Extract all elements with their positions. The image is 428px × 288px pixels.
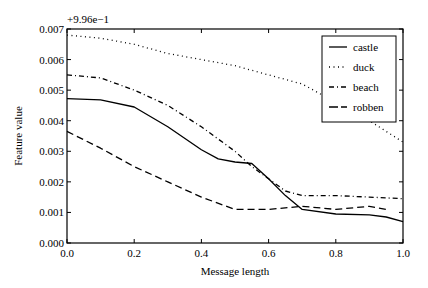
y-tick-label: 0.005	[39, 84, 64, 96]
y-tick-label: 0.000	[39, 237, 64, 249]
x-tick-label: 0.4	[195, 247, 209, 259]
x-tick-label: 0.2	[127, 247, 141, 259]
legend-label: castle	[353, 41, 378, 53]
offset-label: +9.96e−1	[67, 13, 109, 25]
x-axis-label: Message length	[201, 265, 270, 277]
y-tick-label: 0.002	[39, 176, 64, 188]
legend: castleduckbeachrobben	[322, 36, 396, 122]
series-line-robben	[67, 131, 386, 209]
y-axis-label: Feature value	[12, 106, 24, 166]
y-tick-label: 0.007	[39, 23, 64, 35]
x-tick-label: 0.6	[262, 247, 276, 259]
y-tick-label: 0.006	[39, 54, 64, 66]
y-tick-label: 0.001	[39, 206, 64, 218]
y-tick-label: 0.004	[39, 115, 64, 127]
x-tick-label: 1.0	[396, 247, 410, 259]
legend-label: duck	[353, 61, 375, 73]
legend-label: beach	[353, 81, 379, 93]
y-tick-label: 0.003	[39, 145, 64, 157]
line-chart: 0.00.20.40.60.81.00.0000.0010.0020.0030.…	[0, 0, 428, 288]
x-tick-label: 0.8	[329, 247, 343, 259]
legend-label: robben	[353, 101, 384, 113]
